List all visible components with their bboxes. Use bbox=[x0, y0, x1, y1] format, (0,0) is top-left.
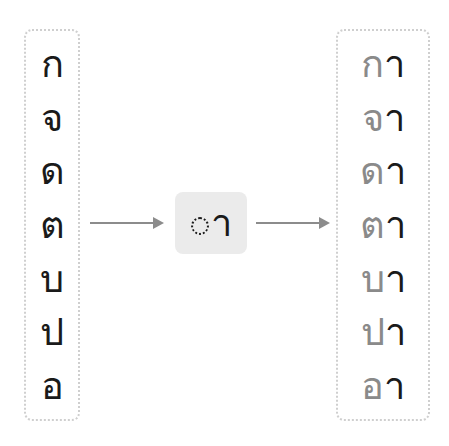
result-syllable: ปา bbox=[361, 308, 406, 356]
result-vowel: า bbox=[385, 257, 406, 301]
result-syllable: จา bbox=[362, 94, 405, 142]
dotted-circle-icon bbox=[191, 217, 209, 235]
arrow-right-icon bbox=[90, 222, 162, 224]
result-vowel: า bbox=[385, 310, 406, 354]
result-consonant: ต bbox=[360, 203, 385, 247]
result-syllable: ตา bbox=[360, 201, 406, 249]
consonant-to-tao: ต bbox=[40, 201, 65, 249]
consonant-do-dek: ด bbox=[40, 147, 65, 195]
result-consonant: ด bbox=[360, 149, 385, 193]
result-vowel: า bbox=[385, 149, 406, 193]
consonant-bo-baimai: บ bbox=[40, 255, 64, 303]
result-vowel: า bbox=[384, 42, 405, 86]
result-consonant: ก bbox=[361, 42, 384, 86]
result-consonant: บ bbox=[361, 257, 385, 301]
result-syllable: อา bbox=[361, 362, 405, 410]
consonant-ko-kai: ก bbox=[41, 40, 64, 88]
vowel-sara-aa: า bbox=[211, 199, 232, 247]
result-syllable: กา bbox=[361, 40, 405, 88]
result-consonant: จ bbox=[362, 96, 384, 140]
result-vowel: า bbox=[384, 96, 405, 140]
result-list-box: กา จา ดา ตา บา ปา อา bbox=[336, 29, 430, 421]
result-syllable: บา bbox=[361, 255, 406, 303]
consonant-o-ang: อ bbox=[41, 362, 64, 410]
result-vowel: า bbox=[385, 203, 406, 247]
vowel-box: า bbox=[175, 192, 247, 254]
result-consonant: ป bbox=[361, 310, 385, 354]
result-vowel: า bbox=[384, 364, 405, 408]
consonant-po-pla: ป bbox=[40, 308, 64, 356]
consonant-list-box: ก จ ด ต บ ป อ bbox=[24, 29, 80, 421]
result-syllable: ดา bbox=[360, 147, 406, 195]
result-consonant: อ bbox=[361, 364, 384, 408]
arrow-right-icon bbox=[256, 222, 328, 224]
consonant-cho-chan: จ bbox=[41, 94, 63, 142]
